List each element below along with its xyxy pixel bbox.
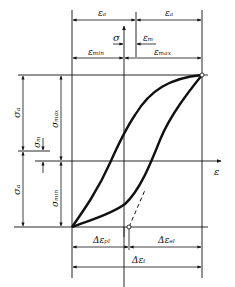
label-eps-min: εₘᵢₙ <box>88 47 104 57</box>
label-eps-a-right: εₐ <box>165 8 173 18</box>
label-delta-eps-el: Δεₑₗ <box>157 235 175 245</box>
loading-branch <box>72 75 202 227</box>
label-sigma-axis: σ <box>113 32 121 43</box>
label-delta-eps-t: Δεₜ <box>131 255 146 265</box>
label-eps-max: εₘₐₓ <box>154 47 172 57</box>
label-eps-m: εₘ <box>143 33 153 43</box>
max-point-marker <box>200 73 204 77</box>
label-eps-a-left: εₐ <box>98 8 106 18</box>
unloading-branch <box>72 75 202 227</box>
hysteresis-diagram: εₐ εₐ σ εₘ εₘᵢₙ εₘₐₓ ε σₐ σₐ σₘ σₘₐₓ σₘᵢ… <box>0 0 235 287</box>
label-epsilon-axis: ε <box>214 166 219 177</box>
label-sigma-min: σₘᵢₙ <box>50 190 60 207</box>
label-sigma-a-lower: σₐ <box>11 184 22 195</box>
label-sigma-m: σₘ <box>32 136 42 148</box>
label-sigma-max: σₘₐₓ <box>50 109 60 128</box>
label-sigma-a-upper: σₐ <box>11 107 22 118</box>
elastic-point-marker <box>127 225 131 229</box>
label-delta-eps-pl: Δεₚₗ <box>92 235 110 245</box>
